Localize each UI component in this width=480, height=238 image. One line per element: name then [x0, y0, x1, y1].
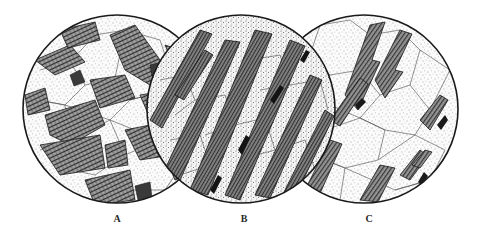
panel-label-c: C — [359, 213, 379, 225]
panel-label-a: A — [107, 213, 127, 225]
panel-b — [147, 15, 335, 203]
panel-label-b: B — [234, 213, 254, 225]
thin-section-figure — [0, 0, 480, 238]
